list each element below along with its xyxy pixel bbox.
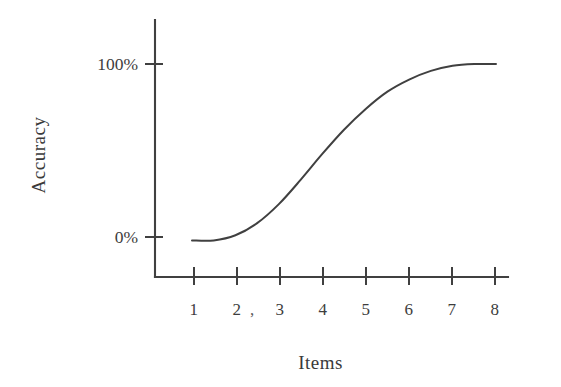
x-tick-label-1: 1 <box>174 300 214 320</box>
accuracy-curve-line <box>192 64 496 241</box>
y-tick-label-100: 100% <box>48 54 138 75</box>
x-axis-title: Items <box>0 352 561 374</box>
x-tick-label-3: 3 <box>260 300 300 320</box>
x-tick-label-5: 5 <box>346 300 386 320</box>
x-tick-label-6: 6 <box>389 300 429 320</box>
x-tick-label-7: 7 <box>432 300 472 320</box>
accuracy-vs-items-figure: 100% 0% Accuracy 1 2 3 4 5 6 7 8 , Items <box>0 0 561 387</box>
y-axis-title: Accuracy <box>28 75 50 235</box>
stray-comma-mark: , <box>250 300 254 320</box>
y-tick-label-0: 0% <box>48 227 138 248</box>
x-tick-label-8: 8 <box>475 300 515 320</box>
x-axis-title-text: Items <box>298 352 343 374</box>
x-tick-label-4: 4 <box>303 300 343 320</box>
